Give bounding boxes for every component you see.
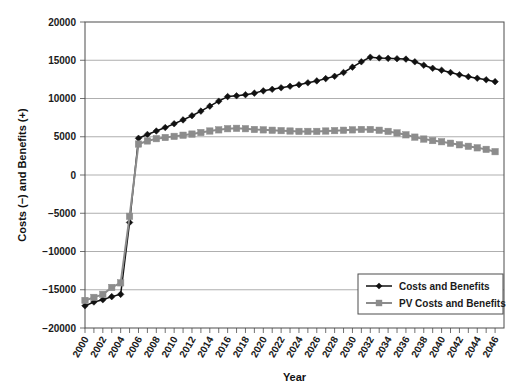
data-point [367, 126, 373, 132]
chart-legend: Costs and BenefitsPV Costs and Benefits [358, 274, 506, 314]
data-point [207, 103, 214, 110]
y-axis-title: Costs (−) and Benefits (+) [16, 108, 28, 242]
data-point [100, 291, 106, 297]
data-point [287, 83, 294, 90]
data-point [305, 128, 311, 134]
data-point [91, 294, 97, 300]
data-point [376, 127, 382, 133]
x-tick-label: 2044 [462, 334, 483, 359]
data-point [331, 73, 338, 80]
data-point [331, 127, 337, 133]
legend-label: Costs and Benefits [399, 281, 490, 292]
data-point [296, 81, 303, 88]
data-point [162, 134, 168, 140]
data-point [108, 293, 115, 300]
data-point [421, 136, 427, 142]
x-tick-label: 2004 [106, 334, 127, 359]
data-point [117, 280, 123, 286]
data-point [162, 124, 169, 131]
data-point [287, 128, 293, 134]
costs-and-benefits-line-chart: 20000150001000050000−5000−10000−15000−20… [0, 0, 519, 392]
y-tick-label: 20000 [48, 17, 76, 28]
data-point [278, 84, 285, 91]
y-tick-label: 10000 [48, 93, 76, 104]
data-point [251, 90, 258, 97]
data-point [135, 141, 141, 147]
data-point [144, 138, 150, 144]
data-point [385, 128, 391, 134]
x-tick-label: 2016 [213, 334, 234, 359]
data-point [456, 142, 462, 148]
data-point [198, 129, 204, 135]
data-point [429, 137, 435, 143]
data-point [153, 135, 159, 141]
x-tick-label: 2038 [409, 334, 430, 359]
data-point [483, 76, 490, 83]
data-point [447, 69, 454, 76]
legend-label: PV Costs and Benefits [399, 298, 506, 309]
x-tick-label: 2022 [266, 334, 287, 359]
y-tick-label: 15000 [48, 55, 76, 66]
x-axis-ticks [85, 328, 495, 333]
data-point [224, 126, 230, 132]
data-point [385, 55, 392, 62]
x-tick-label: 2024 [284, 334, 305, 359]
data-point [340, 127, 346, 133]
data-point [323, 128, 329, 134]
data-point [153, 128, 160, 135]
data-point [82, 297, 88, 303]
y-tick-label: −10000 [42, 246, 76, 257]
data-point [465, 143, 471, 149]
data-point [278, 127, 284, 133]
data-point [215, 98, 222, 105]
data-point [420, 62, 427, 69]
series-costs-and-benefits [82, 54, 499, 309]
y-tick-label: −20000 [42, 323, 76, 334]
data-point [438, 67, 445, 74]
x-tick-label: 2042 [445, 334, 466, 359]
data-point [269, 127, 275, 133]
data-point [412, 58, 419, 65]
chart-container: 20000150001000050000−5000−10000−15000−20… [0, 0, 519, 392]
data-point [447, 140, 453, 146]
data-point [189, 112, 196, 119]
data-point [358, 58, 365, 65]
data-point [305, 80, 312, 87]
data-point [242, 126, 248, 132]
data-point [429, 65, 436, 72]
data-point [242, 91, 249, 98]
x-tick-label: 2036 [391, 334, 412, 359]
x-tick-label: 2032 [355, 334, 376, 359]
x-axis-title: Year [283, 371, 307, 383]
data-point [189, 131, 195, 137]
x-tick-label: 2020 [248, 334, 269, 359]
data-point [456, 71, 463, 78]
data-point [349, 64, 356, 71]
data-point [117, 291, 124, 298]
y-tick-label: −15000 [42, 284, 76, 295]
x-tick-label: 2028 [320, 334, 341, 359]
data-point [340, 69, 347, 76]
x-tick-label: 2014 [195, 334, 216, 359]
data-point [109, 284, 115, 290]
data-point [403, 56, 410, 63]
data-point [394, 130, 400, 136]
gridlines [85, 60, 504, 290]
x-tick-label: 2008 [141, 334, 162, 359]
x-tick-label: 2026 [302, 334, 323, 359]
data-point [198, 108, 205, 115]
data-point [314, 128, 320, 134]
data-point [394, 55, 401, 62]
data-point [438, 139, 444, 145]
data-point [403, 132, 409, 138]
data-point [296, 128, 302, 134]
data-point [180, 132, 186, 138]
data-point [216, 127, 222, 133]
data-point [313, 78, 320, 85]
data-point [126, 213, 132, 219]
data-point [492, 148, 498, 154]
data-point [224, 93, 231, 100]
data-point [251, 126, 257, 132]
data-point [358, 126, 364, 132]
data-point [465, 73, 472, 80]
